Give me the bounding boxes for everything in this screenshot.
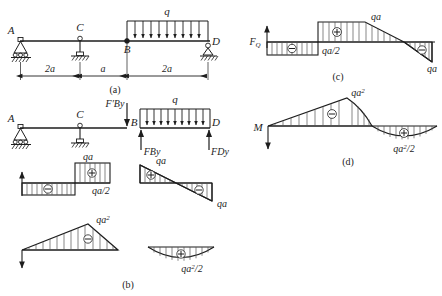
moment-d-peak-neg-text: qa <box>351 87 361 98</box>
shear-c-step-label: qa/2 <box>322 45 340 56</box>
force-label-support-d: FDy <box>210 146 229 157</box>
panel-a: A C <box>7 5 220 96</box>
load-label-q-b: q <box>172 93 178 105</box>
shear-diagram-left: qa qa/2 <box>22 151 110 196</box>
dimension-label-1: 2a <box>45 63 55 74</box>
load-label-q-a: q <box>164 5 170 17</box>
sign-marker-c-neg1 <box>288 44 296 52</box>
fbd-node-label-c: C <box>76 108 84 120</box>
panel-caption-b: (b) <box>122 279 134 291</box>
sign-marker-d-neg <box>328 110 337 119</box>
sign-marker-negative-left <box>44 185 52 193</box>
fbd-left: A C <box>7 98 127 149</box>
dimension-label-2: a <box>101 63 106 74</box>
panel-b: A C <box>7 93 230 291</box>
sign-marker-positive-right <box>147 171 155 179</box>
sign-marker-moment-right <box>177 250 185 258</box>
fbd-node-label-d: D <box>211 116 220 128</box>
panel-c: FQ qa/2 <box>248 11 437 83</box>
fbd-support-c-column <box>71 123 89 147</box>
sign-marker-c-neg2 <box>418 46 426 54</box>
shear-c-peak-label: qa <box>371 11 381 22</box>
sign-marker-positive-left <box>88 169 96 177</box>
support-c-column <box>71 36 89 60</box>
distributed-load-a: q <box>127 5 208 41</box>
shear-right-top-label: qa <box>156 155 166 166</box>
sign-marker-negative-right <box>195 186 203 194</box>
moment-right-peak-label: qa2/2 <box>181 263 202 274</box>
node-label-c: C <box>76 21 84 33</box>
axis-label-c: FQ <box>248 36 260 49</box>
panel-caption-d: (d) <box>342 156 354 168</box>
fbd-node-label-a: A <box>7 112 15 124</box>
panel-caption-a: (a) <box>109 84 120 96</box>
fbd-right: q B D FBy FDy <box>131 93 230 157</box>
fbd-node-label-b: B <box>131 116 138 128</box>
node-label-d: D <box>211 35 220 47</box>
moment-d-peak-pos-text: qa <box>393 143 403 154</box>
shear-c-end-label: qa <box>427 63 437 74</box>
panel-d: M qa2 <box>252 87 437 168</box>
sign-marker-moment-left <box>84 235 92 243</box>
moment-right-peak-text: qa <box>181 263 191 274</box>
shear-left-mid-label: qa/2 <box>92 185 110 196</box>
moment-left-peak-text: qa <box>96 214 106 225</box>
axis-label-d: M <box>252 121 263 133</box>
force-label-hinge-upper: F′By <box>105 98 125 109</box>
shear-left-peak-label: qa <box>83 151 93 162</box>
dimension-chain-a: 2a a 2a <box>21 44 209 80</box>
shear-right-bottom-label: qa <box>217 198 227 209</box>
moment-diagram-left: qa2 <box>22 214 118 268</box>
moment-left-peak-label: qa2 <box>96 214 110 225</box>
moment-d-peak-pos-label: qa2/2 <box>393 143 414 154</box>
moment-diagram-right: qa2/2 <box>148 247 214 274</box>
beam-analysis-figure: A C <box>0 0 442 296</box>
sign-marker-d-pos <box>400 129 409 138</box>
fbd-distributed-load: q <box>140 93 210 128</box>
shear-diagram-right: qa qa <box>140 155 227 209</box>
sign-marker-c-pos <box>333 28 342 37</box>
node-label-a: A <box>7 24 15 36</box>
moment-d-peak-neg-label: qa2 <box>351 87 365 98</box>
panel-caption-c: (c) <box>332 71 343 83</box>
dimension-label-3: 2a <box>162 63 172 74</box>
